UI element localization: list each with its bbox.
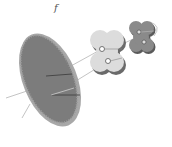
diagram-canvas <box>0 0 172 147</box>
flower-shape-dark <box>129 21 156 54</box>
large-disc <box>7 24 94 135</box>
